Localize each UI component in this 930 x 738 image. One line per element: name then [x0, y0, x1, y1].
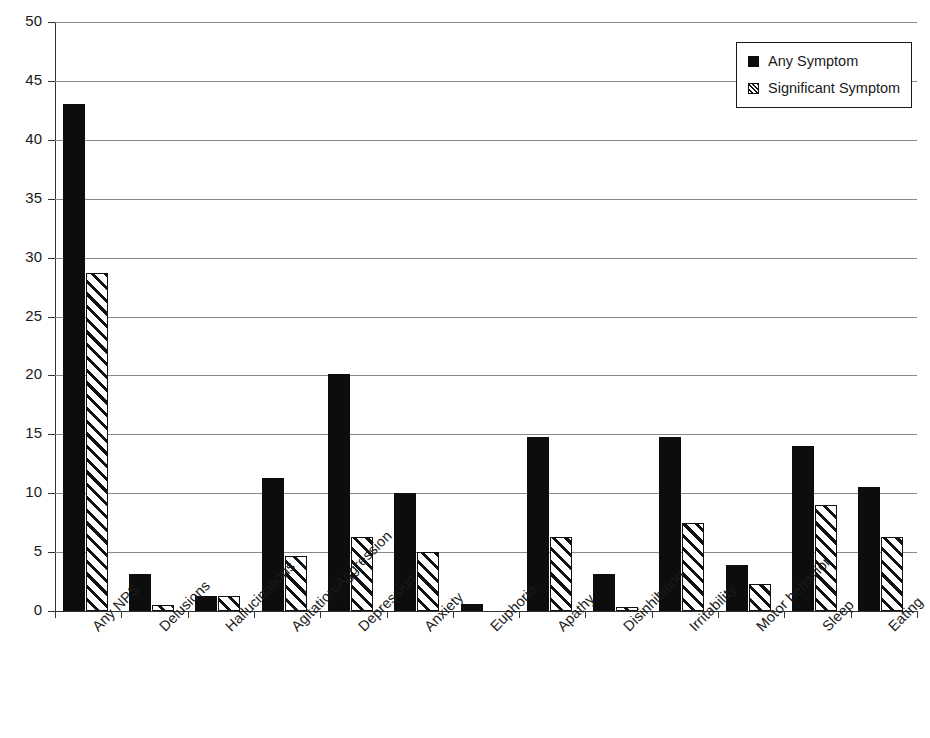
y-tick-label-45: 45: [4, 71, 42, 88]
bar-disinhibition-any-symptom: [593, 574, 615, 611]
y-tick-mark-30: [48, 258, 55, 259]
y-tick-mark-25: [48, 317, 55, 318]
y-tick-mark-50: [48, 22, 55, 23]
gridline-20: [55, 375, 917, 376]
bar-euphoria-any-symptom: [461, 604, 483, 611]
y-tick-mark-0: [48, 611, 55, 612]
gridline-25: [55, 317, 917, 318]
y-tick-mark-10: [48, 493, 55, 494]
bar-apathy-significant-symptom: [550, 537, 572, 611]
bar-irritability-significant-symptom: [682, 523, 704, 611]
gridline-30: [55, 258, 917, 259]
solid-black-square-icon: [748, 56, 759, 67]
gridline-5: [55, 552, 917, 553]
legend-label-any-symptom: Any Symptom: [768, 53, 858, 69]
legend-label-significant-symptom: Significant Symptom: [768, 80, 900, 96]
bar-any-nps-significant-symptom: [86, 273, 108, 611]
y-tick-mark-5: [48, 552, 55, 553]
x-axis-labels: Any NPSDelusionsHallucinationsAgitation/…: [0, 619, 930, 738]
y-tick-label-15: 15: [4, 424, 42, 441]
gridline-15: [55, 434, 917, 435]
y-tick-label-35: 35: [4, 189, 42, 206]
y-tick-label-30: 30: [4, 248, 42, 265]
y-tick-mark-20: [48, 375, 55, 376]
y-tick-label-0: 0: [4, 601, 42, 618]
gridline-40: [55, 140, 917, 141]
y-tick-label-40: 40: [4, 130, 42, 147]
plot-area: [55, 22, 917, 611]
y-tick-mark-15: [48, 434, 55, 435]
y-tick-label-20: 20: [4, 365, 42, 382]
y-tick-label-10: 10: [4, 483, 42, 500]
bar-chart: 05101520253035404550 Any NPSDelusionsHal…: [0, 0, 930, 738]
bar-eating-any-symptom: [858, 487, 880, 611]
bar-anxiety-significant-symptom: [417, 552, 439, 611]
gridline-50: [55, 22, 917, 23]
gridline-35: [55, 199, 917, 200]
x-tick-mark-0: [55, 611, 56, 618]
y-tick-mark-35: [48, 199, 55, 200]
legend-item-any-symptom: Any Symptom: [748, 51, 858, 71]
bar-eating-significant-symptom: [881, 537, 903, 611]
gridline-10: [55, 493, 917, 494]
y-tick-label-25: 25: [4, 307, 42, 324]
hatched-square-icon: [748, 83, 759, 94]
y-tick-mark-45: [48, 81, 55, 82]
bar-any-nps-any-symptom: [63, 104, 85, 611]
y-tick-label-5: 5: [4, 542, 42, 559]
y-tick-mark-40: [48, 140, 55, 141]
legend-item-significant-symptom: Significant Symptom: [748, 78, 900, 98]
y-tick-label-50: 50: [4, 12, 42, 29]
chart-legend: Any Symptom Significant Symptom: [736, 42, 912, 108]
